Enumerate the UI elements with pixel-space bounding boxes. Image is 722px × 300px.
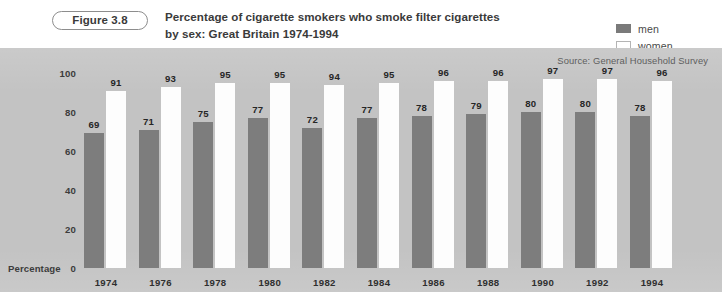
legend-swatch-men-icon <box>616 24 631 33</box>
bar-value-men-1990: 80 <box>525 98 536 109</box>
x-axis-tick-1992: 1992 <box>575 277 619 288</box>
bar-value-women-1978: 95 <box>220 69 231 80</box>
y-axis-tick-60: 60 <box>46 146 76 157</box>
x-axis-tick-1978: 1978 <box>193 277 237 288</box>
legend-item-men: men <box>616 20 716 37</box>
bar-value-women-1982: 94 <box>329 71 340 82</box>
figure-number-badge: Figure 3.8 <box>52 11 148 30</box>
bar-women-1992[interactable]: 97 <box>597 79 617 268</box>
bar-men-1982[interactable]: 72 <box>302 128 322 268</box>
bar-women-1982[interactable]: 94 <box>324 85 344 268</box>
bar-value-men-1984: 77 <box>361 104 372 115</box>
bar-men-1984[interactable]: 77 <box>357 118 377 268</box>
x-axis-tick-1984: 1984 <box>357 277 401 288</box>
bar-value-men-1988: 79 <box>471 100 482 111</box>
bar-men-1974[interactable]: 69 <box>84 133 104 268</box>
bars-1986: 7896 <box>412 68 456 268</box>
x-axis-tick-1990: 1990 <box>521 277 565 288</box>
bar-women-1974[interactable]: 91 <box>106 91 126 268</box>
y-axis-tick-80: 80 <box>46 107 76 118</box>
legend-label-men: men <box>638 23 659 35</box>
x-axis-tick-1988: 1988 <box>466 277 510 288</box>
bar-men-1986[interactable]: 78 <box>412 116 432 268</box>
bars-1982: 7294 <box>302 68 346 268</box>
bar-value-women-1990: 97 <box>547 65 558 76</box>
bar-men-1990[interactable]: 80 <box>521 112 541 268</box>
figure-title-line-1: Percentage of cigarette smokers who smok… <box>165 8 605 25</box>
bars-1978: 7595 <box>193 68 237 268</box>
bar-value-women-1992: 97 <box>602 65 613 76</box>
bar-value-women-1980: 95 <box>274 69 285 80</box>
bar-women-1980[interactable]: 95 <box>270 83 290 268</box>
x-axis-tick-1994: 1994 <box>630 277 674 288</box>
bars-1994: 7896 <box>630 68 674 268</box>
bars-1976: 7193 <box>139 68 183 268</box>
bar-value-men-1980: 77 <box>252 104 263 115</box>
x-axis-tick-1982: 1982 <box>302 277 346 288</box>
x-axis-tick-1980: 1980 <box>248 277 292 288</box>
bar-men-1992[interactable]: 80 <box>575 112 595 268</box>
bar-men-1988[interactable]: 79 <box>466 114 486 268</box>
bar-value-women-1986: 96 <box>438 67 449 78</box>
y-axis-tick-100: 100 <box>46 68 76 79</box>
x-axis-tick-1976: 1976 <box>139 277 183 288</box>
bar-men-1976[interactable]: 71 <box>139 130 159 268</box>
figure-title: Percentage of cigarette smokers who smok… <box>165 8 605 42</box>
bar-women-1988[interactable]: 96 <box>488 81 508 268</box>
bar-women-1984[interactable]: 95 <box>379 83 399 268</box>
bar-value-women-1984: 95 <box>383 69 394 80</box>
bar-women-1994[interactable]: 96 <box>652 81 672 268</box>
bar-value-women-1974: 91 <box>110 77 121 88</box>
bars-1990: 8097 <box>521 68 565 268</box>
chart-panel: Source: General Household Survey 0204060… <box>0 48 722 292</box>
figure-root: Figure 3.8 Percentage of cigarette smoke… <box>0 0 722 300</box>
bar-value-men-1992: 80 <box>580 98 591 109</box>
bar-men-1994[interactable]: 78 <box>630 116 650 268</box>
bar-women-1990[interactable]: 97 <box>543 79 563 268</box>
bar-women-1976[interactable]: 93 <box>161 87 181 268</box>
bar-value-men-1976: 71 <box>143 116 154 127</box>
bar-value-men-1986: 78 <box>416 102 427 113</box>
y-axis-label: Percentage <box>8 263 74 274</box>
x-axis-tick-1974: 1974 <box>84 277 128 288</box>
bar-value-men-1994: 78 <box>634 102 645 113</box>
bars-1984: 7795 <box>357 68 401 268</box>
figure-title-line-2: by sex: Great Britain 1974-1994 <box>165 25 605 42</box>
bars-1974: 6991 <box>84 68 128 268</box>
y-axis-tick-20: 20 <box>46 224 76 235</box>
bar-women-1978[interactable]: 95 <box>215 83 235 268</box>
bar-value-women-1994: 96 <box>656 67 667 78</box>
bars-1992: 8097 <box>575 68 619 268</box>
bar-women-1986[interactable]: 96 <box>434 81 454 268</box>
x-axis-tick-1986: 1986 <box>412 277 456 288</box>
bars-1980: 7795 <box>248 68 292 268</box>
figure-header: Figure 3.8 Percentage of cigarette smoke… <box>0 0 722 48</box>
y-axis-tick-40: 40 <box>46 185 76 196</box>
bar-men-1980[interactable]: 77 <box>248 118 268 268</box>
bar-value-men-1978: 75 <box>198 108 209 119</box>
bar-value-women-1976: 93 <box>165 73 176 84</box>
bar-value-men-1974: 69 <box>88 119 99 130</box>
bars-1988: 7996 <box>466 68 510 268</box>
bar-value-men-1982: 72 <box>307 114 318 125</box>
plot-area: 020406080100Percentage699119747193197675… <box>0 48 722 292</box>
bar-men-1978[interactable]: 75 <box>193 122 213 268</box>
bar-value-women-1988: 96 <box>493 67 504 78</box>
